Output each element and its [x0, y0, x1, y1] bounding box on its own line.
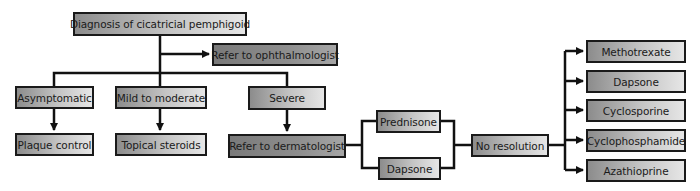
root-node: Diagnosis of cicatricial pemphigoid: [73, 12, 247, 36]
refer-ophthalmologist-node: Refer to ophthalmologist: [212, 43, 338, 66]
refer-dermatologist-node: Refer to dermatologist: [228, 134, 346, 158]
treatment-topical-steroids-node: Topical steroids: [115, 133, 207, 156]
second-line-methotrexate-node: Methotrexate: [586, 40, 686, 63]
first-line-dapsone-node: Dapsone: [378, 157, 441, 180]
severity-mild-node: Mild to moderate: [115, 86, 207, 109]
severity-asymptomatic-node: Asymptomatic: [15, 86, 94, 109]
second-line-dapsone-node: Dapsone: [586, 70, 686, 93]
second-line-cyclophosphamide-node: Cyclophosphamide: [586, 129, 686, 152]
treatment-plaque-control-node: Plaque control: [15, 133, 94, 156]
second-line-azathioprine-node: Azathioprine: [586, 159, 686, 182]
first-line-prednisone-node: Prednisone: [376, 110, 441, 133]
second-line-cyclosporine-node: Cyclosporine: [586, 99, 686, 122]
severity-severe-node: Severe: [248, 86, 326, 110]
no-resolution-node: No resolution: [471, 134, 549, 157]
